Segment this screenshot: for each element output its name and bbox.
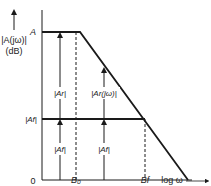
bode-plot-diagram: |A(jω)| (dB) log ω 0 A |Af| B₀ Bf |Ar| |… — [0, 0, 211, 186]
open-loop-gain-label: A — [29, 27, 36, 37]
x-axis-label: log ω — [161, 175, 183, 185]
y-axis-label: |A(jω)| — [1, 35, 27, 45]
ar-label-left: |Ar| — [54, 89, 66, 98]
af-label-left: |Af| — [54, 145, 66, 154]
b0-label: B₀ — [71, 175, 81, 185]
closed-loop-gain-label: |Af| — [25, 115, 37, 124]
ar-jw-label: |Ar(jω)| — [91, 89, 117, 98]
open-loop-gain-curve — [42, 32, 188, 180]
origin-label: 0 — [30, 176, 35, 186]
bf-label: Bf — [141, 175, 151, 185]
af-label-mid: |Af| — [98, 145, 110, 154]
y-axis-unit: (dB) — [5, 46, 22, 56]
